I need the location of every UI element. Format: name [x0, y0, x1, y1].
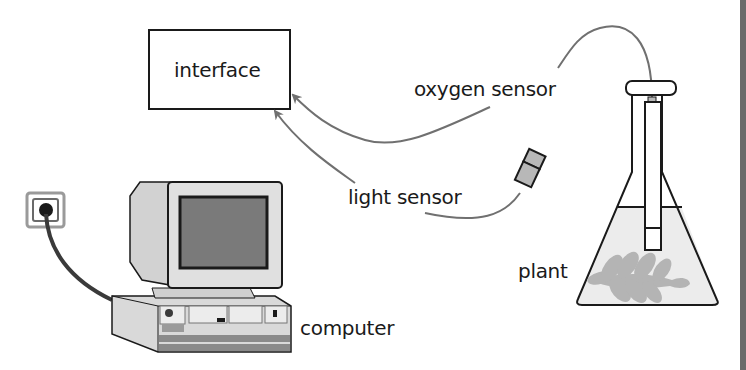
diagram: interface oxygen sensor light sensor pla…	[0, 0, 746, 370]
oxygen-sensor-label: oxygen sensor	[414, 77, 556, 101]
oxygen-sensor-probe	[645, 97, 661, 250]
light-sensor-probe	[515, 149, 546, 187]
interface-label: interface	[174, 58, 261, 82]
computer-label: computer	[300, 316, 394, 340]
plant-label: plant	[518, 259, 568, 283]
computer-icon	[112, 182, 291, 352]
light-sensor-label: light sensor	[348, 185, 461, 209]
page-edge-bar	[740, 0, 746, 370]
